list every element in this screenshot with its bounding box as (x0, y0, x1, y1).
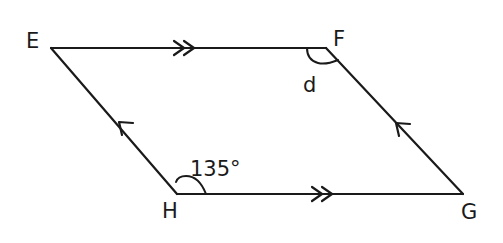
angle-label-h: 135° (190, 157, 241, 181)
angle-label-f: d (303, 73, 316, 97)
vertex-label-h: H (162, 199, 178, 223)
side-he (51, 48, 177, 194)
vertex-label-e: E (26, 29, 39, 53)
parallelogram-diagram: E F G H 135° d (0, 0, 503, 243)
vertex-label-g: G (461, 200, 477, 224)
side-fg (326, 48, 463, 194)
arrow-icon-he (119, 122, 133, 135)
vertex-label-f: F (333, 27, 345, 51)
